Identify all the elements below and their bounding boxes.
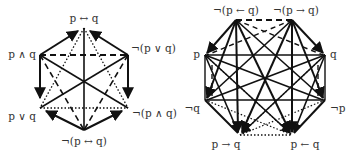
logic-diagrams: p ↔ q p ∧ q ¬(p ∨ q) p ∨ q ¬(p ∧ q) ¬(p … bbox=[0, 0, 348, 157]
edge bbox=[236, 20, 238, 132]
edge bbox=[205, 100, 238, 133]
hexagon-diagram bbox=[40, 28, 128, 130]
node-label: ¬(p ↔ q) bbox=[61, 135, 107, 147]
node-label: ¬p bbox=[330, 102, 346, 114]
node-label: p → q bbox=[212, 138, 241, 150]
node-label: p ↔ q bbox=[70, 12, 99, 24]
node-label: ¬(p → q) bbox=[273, 4, 319, 16]
node-label: p ← q bbox=[291, 138, 320, 150]
edge bbox=[207, 20, 236, 53]
edge bbox=[205, 100, 292, 135]
edge bbox=[40, 31, 78, 55]
node-label: ¬(p ← q) bbox=[213, 4, 259, 16]
node-label: ¬q bbox=[184, 102, 200, 114]
node-label: q bbox=[330, 48, 337, 60]
node-label: ¬(p ∧ q) bbox=[132, 107, 177, 119]
node-label: p bbox=[193, 48, 200, 60]
edge bbox=[90, 31, 128, 55]
node-label: p ∨ q bbox=[8, 110, 36, 122]
node-label: ¬(p ∨ q) bbox=[131, 42, 176, 54]
edge bbox=[294, 100, 325, 133]
edge bbox=[236, 20, 290, 132]
node-label: p ∧ q bbox=[8, 48, 36, 60]
edge bbox=[240, 100, 325, 135]
octagon-diagram bbox=[205, 20, 325, 135]
